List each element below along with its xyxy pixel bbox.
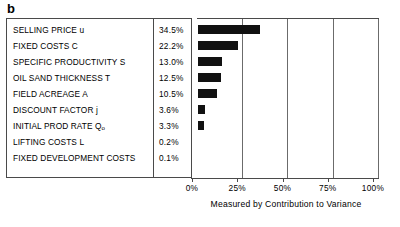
table-row: FIXED DEVELOPMENT COSTS0.1%: [7, 150, 193, 166]
x-axis-title: Measured by Contribution to Variance: [192, 198, 380, 210]
x-tick-label: 25%: [228, 183, 246, 194]
table-row: SPECIFIC PRODUCTIVITY S13.0%: [7, 54, 193, 70]
tornado-chart-figure: b SELLING PRICE u34.5%FIXED COSTS C22.2%…: [0, 0, 400, 227]
bar: [198, 57, 222, 66]
variance-percent: 0.2%: [159, 134, 179, 150]
x-tick-label: 50%: [274, 183, 292, 194]
variance-percent: 3.6%: [159, 102, 179, 118]
variable-name: DISCOUNT FACTOR j: [13, 102, 98, 118]
plot-area: [197, 18, 379, 178]
variance-percent: 34.5%: [159, 22, 184, 38]
variable-table: SELLING PRICE u34.5%FIXED COSTS C22.2%SP…: [6, 18, 192, 178]
bar-group: [197, 19, 379, 179]
x-tick-0: [192, 178, 193, 182]
table-row: INITIAL PROD RATE Qo3.3%: [7, 118, 193, 134]
variable-name: FIELD ACREAGE A: [13, 86, 88, 102]
x-tick-label: 75%: [319, 183, 337, 194]
table-row: OIL SAND THICKNESS T12.5%: [7, 70, 193, 86]
variable-name: FIXED DEVELOPMENT COSTS: [13, 150, 135, 166]
tornado-chart-body: SELLING PRICE u34.5%FIXED COSTS C22.2%SP…: [6, 18, 379, 178]
variable-table-rows: SELLING PRICE u34.5%FIXED COSTS C22.2%SP…: [7, 19, 193, 177]
variable-name: OIL SAND THICKNESS T: [13, 70, 110, 86]
variable-name: FIXED COSTS C: [13, 38, 78, 54]
x-tick-label: 100%: [362, 183, 384, 194]
variance-percent: 3.3%: [159, 118, 179, 134]
bar: [198, 73, 221, 82]
variance-percent: 0.1%: [159, 150, 179, 166]
bar: [198, 89, 217, 98]
x-tick-75: [328, 178, 329, 182]
x-axis-line: [191, 178, 379, 179]
bar: [198, 41, 238, 50]
bar: [198, 25, 260, 34]
variance-percent: 22.2%: [159, 38, 184, 54]
panel-letter: b: [7, 2, 15, 16]
variable-name: LIFTING COSTS L: [13, 134, 84, 150]
variance-percent: 12.5%: [159, 70, 184, 86]
x-tick-50: [283, 178, 284, 182]
x-tick-25: [237, 178, 238, 182]
bar: [198, 105, 205, 114]
variable-name: SPECIFIC PRODUCTIVITY S: [13, 54, 125, 70]
table-row: SELLING PRICE u34.5%: [7, 22, 193, 38]
table-row: DISCOUNT FACTOR j3.6%: [7, 102, 193, 118]
variable-name: INITIAL PROD RATE Qo: [13, 118, 105, 134]
variable-name: SELLING PRICE u: [13, 22, 84, 38]
table-row: FIELD ACREAGE A10.5%: [7, 86, 193, 102]
x-tick-label: 0%: [186, 183, 199, 194]
table-row: FIXED COSTS C22.2%: [7, 38, 193, 54]
bar: [198, 121, 204, 130]
variance-percent: 13.0%: [159, 54, 184, 70]
table-row: LIFTING COSTS L0.2%: [7, 134, 193, 150]
variance-percent: 10.5%: [159, 86, 184, 102]
x-tick-100: [373, 178, 374, 182]
